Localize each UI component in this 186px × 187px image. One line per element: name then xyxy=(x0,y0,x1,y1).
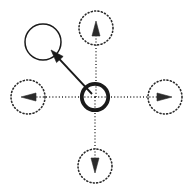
diagram-svg xyxy=(0,0,186,187)
diagram-canvas xyxy=(0,0,186,187)
